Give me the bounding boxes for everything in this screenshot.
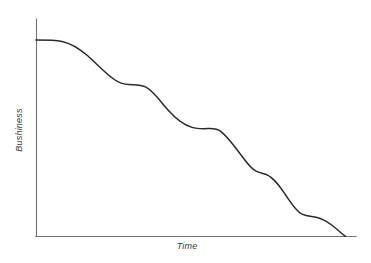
chart-figure: Time Bushiness [0, 0, 371, 263]
y-axis-title: Bushiness [14, 108, 24, 152]
x-axis-title: Time [177, 241, 198, 251]
axis-titles-layer: Time Bushiness [0, 0, 371, 263]
